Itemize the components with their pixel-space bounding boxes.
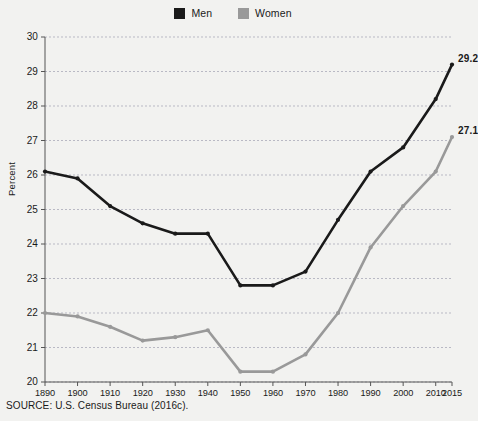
data-point [43, 311, 47, 315]
data-point [141, 221, 145, 225]
series-lines [43, 63, 454, 374]
x-tick-marks [41, 37, 452, 386]
x-tick-label: 1960 [257, 388, 289, 398]
data-point [369, 169, 373, 173]
data-point [75, 176, 79, 180]
data-point [238, 370, 242, 374]
data-point [336, 311, 340, 315]
data-point [75, 314, 79, 318]
y-tick-label: 21 [14, 342, 38, 353]
y-tick-label: 24 [14, 238, 38, 249]
data-point [303, 352, 307, 356]
x-tick-label: 1980 [322, 388, 354, 398]
data-point [43, 169, 47, 173]
y-tick-label: 26 [14, 169, 38, 180]
data-point [434, 169, 438, 173]
x-tick-label: 1950 [224, 388, 256, 398]
x-tick-label: 1900 [62, 388, 94, 398]
data-point [271, 370, 275, 374]
x-tick-label: 1890 [29, 388, 61, 398]
data-point [369, 245, 373, 249]
y-tick-label: 20 [14, 376, 38, 387]
data-point [238, 283, 242, 287]
data-point [450, 135, 454, 139]
data-point [206, 232, 210, 236]
data-point [108, 204, 112, 208]
data-point [271, 283, 275, 287]
x-tick-label: 2015 [436, 388, 468, 398]
data-point [401, 204, 405, 208]
data-point [173, 232, 177, 236]
y-tick-label: 30 [14, 31, 38, 42]
data-point [108, 325, 112, 329]
x-tick-label: 1990 [355, 388, 387, 398]
data-point [401, 145, 405, 149]
y-tick-label: 28 [14, 100, 38, 111]
x-tick-label: 1940 [192, 388, 224, 398]
y-tick-label: 22 [14, 307, 38, 318]
y-tick-label: 25 [14, 204, 38, 215]
x-tick-label: 1920 [127, 388, 159, 398]
y-tick-label: 27 [14, 135, 38, 146]
data-point [173, 335, 177, 339]
end-label-women: 27.1 [458, 125, 478, 136]
data-point [141, 339, 145, 343]
y-tick-label: 29 [14, 66, 38, 77]
data-point [450, 63, 454, 67]
end-label-men: 29.2 [458, 53, 478, 64]
source-note: SOURCE: U.S. Census Bureau (2016c). [6, 400, 188, 411]
data-point [434, 97, 438, 101]
y-tick-label: 23 [14, 273, 38, 284]
series-line-women [45, 137, 452, 372]
x-tick-label: 1930 [159, 388, 191, 398]
data-point [336, 218, 340, 222]
data-point [303, 270, 307, 274]
gridlines [45, 37, 452, 382]
x-tick-label: 2000 [387, 388, 419, 398]
x-tick-label: 1910 [94, 388, 126, 398]
data-point [206, 328, 210, 332]
x-tick-label: 1970 [289, 388, 321, 398]
